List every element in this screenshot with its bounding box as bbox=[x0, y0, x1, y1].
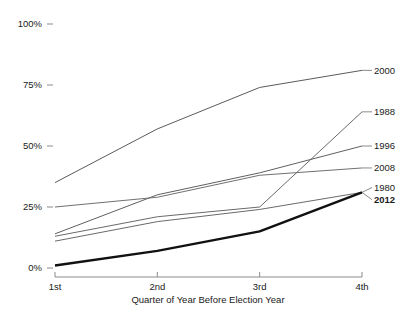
series-line-2008 bbox=[55, 168, 362, 207]
y-tick-marks bbox=[47, 24, 53, 268]
series-leader-1980 bbox=[362, 187, 372, 192]
series-label-2000: 2000 bbox=[374, 65, 395, 76]
series-leader-2012 bbox=[362, 192, 372, 199]
x-tick-labels: 1st2nd3rd4th bbox=[49, 281, 369, 292]
series-lines-group bbox=[55, 70, 362, 265]
y-tick-label: 75% bbox=[23, 79, 43, 90]
series-label-1996: 1996 bbox=[374, 140, 395, 151]
y-tick-label: 50% bbox=[23, 140, 43, 151]
y-axis-group: 0%25%50%75%100% bbox=[18, 18, 53, 273]
x-axis-group: 1st2nd3rd4th Quarter of Year Before Elec… bbox=[49, 272, 369, 305]
line-chart: 0%25%50%75%100% 1st2nd3rd4th Quarter of … bbox=[0, 0, 411, 323]
x-tick-label: 1st bbox=[49, 281, 62, 292]
y-tick-label: 100% bbox=[18, 18, 43, 29]
y-tick-label: 25% bbox=[23, 201, 43, 212]
series-line-2012 bbox=[55, 192, 362, 265]
series-labels-group: 200019881996200819802012 bbox=[374, 65, 395, 205]
x-tick-label: 2nd bbox=[149, 281, 165, 292]
series-line-2000 bbox=[55, 70, 362, 182]
y-tick-labels: 0%25%50%75%100% bbox=[18, 18, 43, 273]
series-label-1980: 1980 bbox=[374, 182, 395, 193]
x-tick-marks bbox=[55, 272, 362, 277]
series-label-1988: 1988 bbox=[374, 106, 395, 117]
series-line-1988 bbox=[55, 112, 362, 236]
series-label-2012: 2012 bbox=[374, 194, 395, 205]
x-tick-label: 3rd bbox=[253, 281, 267, 292]
y-tick-label: 0% bbox=[28, 262, 42, 273]
chart-container: 0%25%50%75%100% 1st2nd3rd4th Quarter of … bbox=[0, 0, 411, 323]
series-line-1996 bbox=[55, 146, 362, 234]
x-tick-label: 4th bbox=[355, 281, 368, 292]
series-leaders-group bbox=[362, 70, 372, 199]
x-axis-title: Quarter of Year Before Election Year bbox=[131, 294, 284, 305]
series-label-2008: 2008 bbox=[374, 162, 395, 173]
